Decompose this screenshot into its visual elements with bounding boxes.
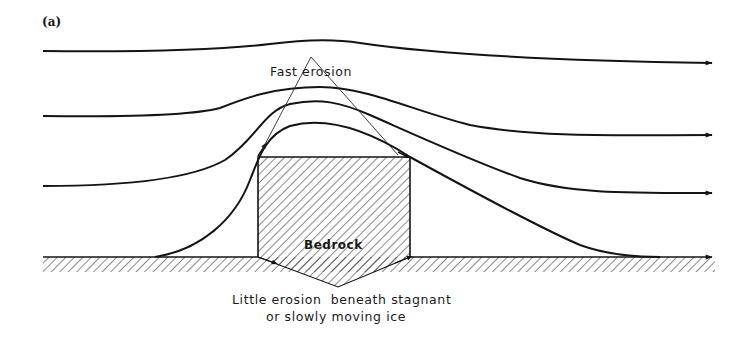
flowline-1 <box>43 40 712 63</box>
bedrock-label: Bedrock <box>304 238 363 252</box>
fast-erosion-label: Fast erosion <box>270 64 352 79</box>
panel-label: (a) <box>42 15 61 29</box>
glacial-erosion-diagram: (a) Fast erosion Bedrock Little erosion … <box>0 0 750 345</box>
flowline-2 <box>43 87 712 135</box>
little-erosion-label-line1: Little erosion beneath stagnant <box>232 292 451 307</box>
little-erosion-label-line2: or slowly moving ice <box>266 309 406 324</box>
